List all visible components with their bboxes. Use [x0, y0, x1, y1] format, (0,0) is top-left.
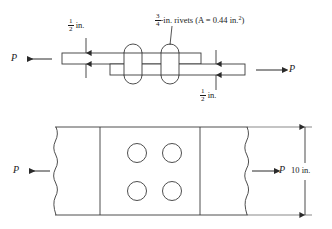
rivet-hole-1	[128, 144, 147, 163]
rivet-1	[124, 44, 142, 84]
rivet-hole-3	[128, 182, 147, 201]
elevation-force-label-right: P	[289, 64, 295, 74]
rivet-hole-4	[163, 182, 182, 201]
thickness-bottom-fraction: 1 2	[200, 88, 206, 103]
plan-force-label-left: P	[13, 165, 19, 175]
plan-view	[29, 127, 312, 215]
plan-break-line-right	[245, 127, 249, 215]
thickness-top-denominator: 2	[68, 26, 74, 33]
thickness-label-bottom: 1 2 in.	[200, 88, 216, 103]
thickness-label-top: 1 2 in.	[68, 18, 84, 33]
rivet-callout-label: 3 4 -in. rivets (A = 0.44 in.2)	[155, 13, 244, 28]
rivet-callout-leader	[170, 26, 172, 45]
plan-width-label: 10 in.	[291, 166, 310, 175]
thickness-top-fraction: 1 2	[68, 18, 74, 33]
thickness-bottom-denominator: 2	[200, 96, 206, 103]
thickness-bottom-unit: in.	[208, 91, 217, 100]
elevation-force-label-left: P	[11, 53, 17, 63]
thickness-top-unit: in.	[76, 21, 85, 30]
rivet-callout-close: )	[241, 15, 244, 25]
figure-linework	[0, 0, 332, 229]
plan-break-line-left	[54, 127, 58, 215]
plan-force-label-right: P	[279, 165, 285, 175]
rivet-hole-2	[163, 144, 182, 163]
rivet-2	[161, 44, 179, 84]
rivet-callout-text: -in. rivets (A = 0.44 in.	[161, 16, 239, 25]
riveted-joint-figure: P P 1 2 in. 1 2 in. 3 4 -in. rivets (A =…	[0, 0, 332, 229]
elevation-view	[27, 26, 282, 90]
